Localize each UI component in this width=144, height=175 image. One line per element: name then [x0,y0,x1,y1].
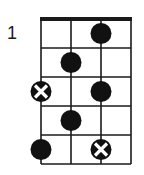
finger-dot-icon [91,23,112,44]
finger-dot-icon [91,81,112,102]
fretboard-diagram [0,0,144,175]
finger-dot-icon [61,52,82,73]
finger-dot-icon [31,139,52,160]
fretboard-grid [40,17,132,164]
root-x-icon [31,81,52,102]
finger-dot-icon [61,110,82,131]
nut [40,17,132,21]
root-x-icon [91,139,112,160]
